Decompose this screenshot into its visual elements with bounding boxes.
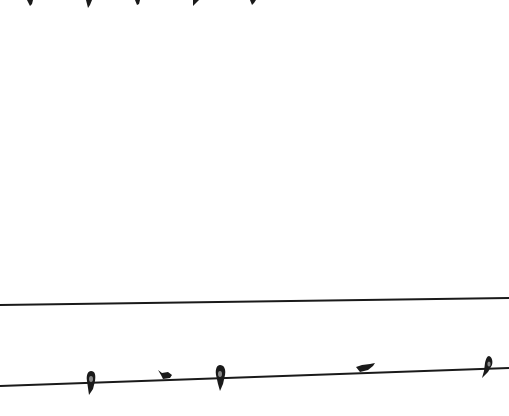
bird-silhouette: [356, 363, 375, 372]
bird-silhouette: [482, 356, 492, 378]
upper-power-line: [0, 298, 509, 305]
bird-silhouette: [250, 0, 256, 5]
photo-scene: [0, 0, 509, 416]
bird-silhouette: [216, 365, 226, 391]
top-birds: [27, 0, 256, 8]
bird-silhouette: [86, 0, 92, 8]
lower-power-line: [0, 368, 509, 386]
bird-silhouette: [135, 0, 140, 5]
bird-silhouette: [87, 371, 96, 395]
bird-silhouette: [27, 0, 33, 6]
bird-silhouette: [193, 0, 199, 6]
bird-silhouette: [158, 370, 172, 379]
